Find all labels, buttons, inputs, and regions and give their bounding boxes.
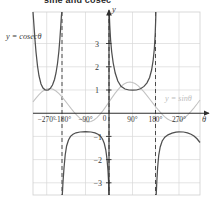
plot-background [33,12,200,195]
y-axis-label: y [111,4,116,14]
y-tick-label-minus3: −3 [93,179,102,188]
x-tick-label-270: 270° [172,115,186,124]
x-axis-label: θ [202,114,206,124]
y-tick-label-2: 2 [95,63,99,72]
x-tick-label-minus90: −90° [78,115,93,124]
chart-svg: y θ 3 2 1 −1 −2 −3 −270° −180° −90° 0 90… [0,0,216,207]
trig-graph-figure: y θ 3 2 1 −1 −2 −3 −270° −180° −90° 0 90… [0,0,216,207]
x-tick-label-zero: 0 [103,114,107,123]
y-tick-label-minus1: −1 [93,133,102,142]
sin-curve-label: y = sinθ [164,94,192,103]
x-tick-label-90: 90° [127,115,137,124]
y-tick-label-minus2: −2 [93,156,102,165]
cosec-curve-label: y = cosecθ [5,32,41,41]
y-tick-label-1: 1 [95,86,99,95]
figure-root: sine and cosec [0,0,216,207]
x-tick-label-minus180: −180° [53,115,71,124]
x-tick-label-180: 180° [148,115,162,124]
y-tick-label-3: 3 [95,40,99,49]
